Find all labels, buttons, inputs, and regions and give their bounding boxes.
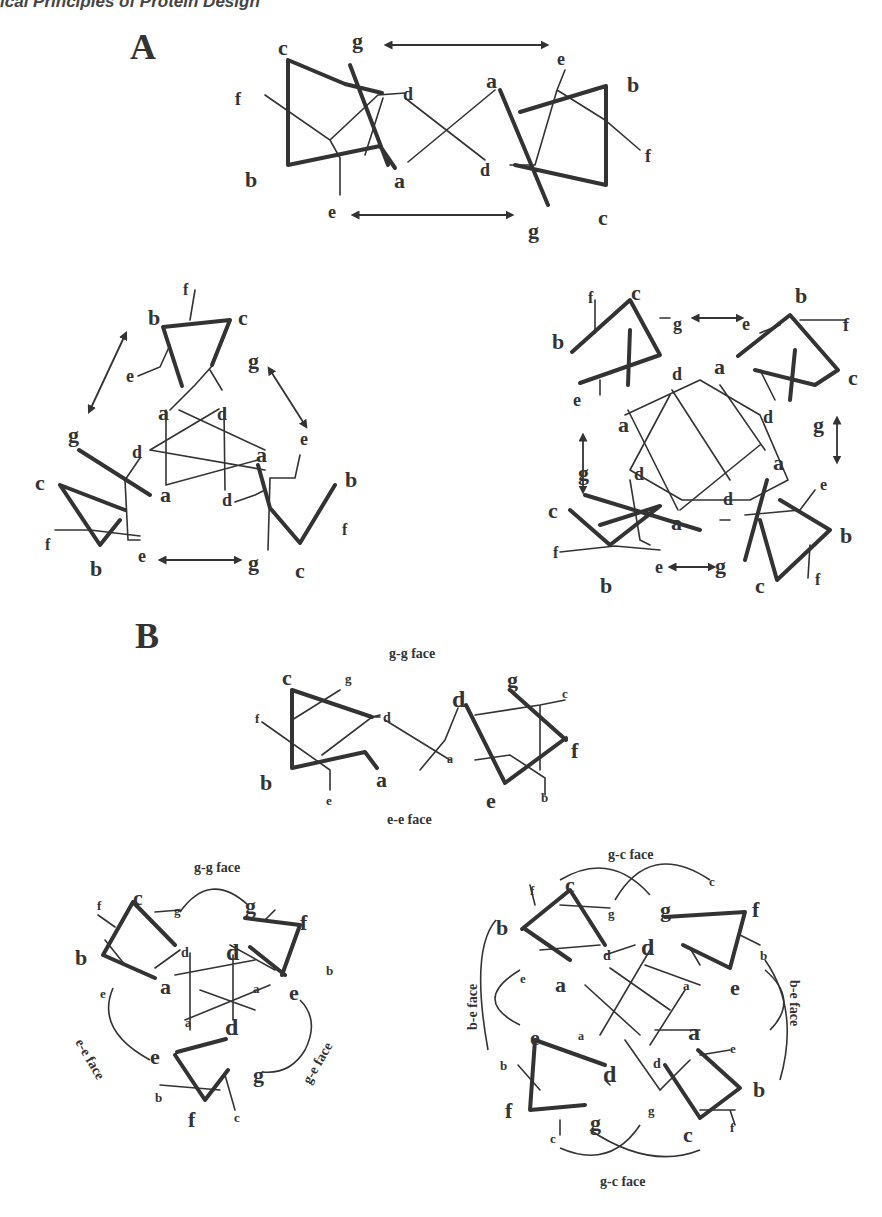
svg-text:a: a bbox=[773, 450, 784, 475]
svg-text:g: g bbox=[660, 897, 671, 922]
svg-text:g: g bbox=[245, 893, 256, 918]
svg-text:f: f bbox=[645, 146, 652, 166]
panel-a-tetramer-diagram: f c b b g e f d a c e d g a g d a e c d … bbox=[548, 280, 858, 598]
svg-text:e: e bbox=[150, 1044, 160, 1069]
b-dimer-face-top: g-g face bbox=[389, 646, 435, 661]
helical-wheel-figure: c g f d a e b b a d f e g c f b c g e a … bbox=[0, 0, 882, 1217]
svg-text:c: c bbox=[755, 573, 765, 598]
svg-text:e: e bbox=[742, 314, 750, 334]
svg-text:c: c bbox=[35, 470, 45, 495]
svg-text:c: c bbox=[282, 665, 292, 690]
svg-text:e: e bbox=[557, 49, 565, 69]
svg-text:a: a bbox=[160, 974, 171, 999]
svg-text:a: a bbox=[158, 400, 169, 425]
svg-text:b: b bbox=[600, 573, 612, 598]
svg-text:e: e bbox=[730, 975, 740, 1000]
svg-text:g: g bbox=[528, 218, 539, 243]
svg-text:b: b bbox=[245, 167, 257, 192]
svg-text:f: f bbox=[588, 289, 594, 306]
svg-text:d: d bbox=[653, 1056, 661, 1071]
b-trimer-face-left: e-e face bbox=[72, 1036, 107, 1082]
svg-text:b: b bbox=[496, 915, 508, 940]
svg-text:a: a bbox=[256, 442, 267, 467]
svg-text:f: f bbox=[571, 738, 579, 763]
svg-text:e: e bbox=[530, 1025, 540, 1050]
svg-text:e: e bbox=[730, 1041, 736, 1056]
svg-text:g: g bbox=[608, 906, 615, 921]
svg-text:g: g bbox=[248, 348, 259, 373]
b-tetramer-face-right: b-e face bbox=[787, 980, 802, 1026]
svg-text:g: g bbox=[248, 550, 259, 575]
svg-text:f: f bbox=[300, 910, 308, 935]
svg-text:c: c bbox=[631, 280, 641, 305]
label-c: c bbox=[278, 35, 288, 60]
svg-text:g: g bbox=[174, 903, 181, 918]
svg-text:a: a bbox=[688, 1019, 700, 1045]
b-dimer-face-bottom: e-e face bbox=[387, 812, 432, 827]
svg-text:e: e bbox=[328, 202, 336, 222]
svg-text:f: f bbox=[752, 897, 760, 922]
panel-a-dimer-diagram: c g f d a e b b a d f e g c bbox=[235, 28, 652, 243]
svg-text:e: e bbox=[486, 788, 496, 813]
svg-text:f: f bbox=[815, 571, 821, 588]
svg-text:f: f bbox=[530, 883, 535, 898]
svg-text:d: d bbox=[603, 1061, 617, 1087]
svg-text:a: a bbox=[253, 981, 260, 996]
svg-text:f: f bbox=[553, 544, 559, 561]
svg-text:d: d bbox=[763, 407, 773, 427]
svg-text:b: b bbox=[760, 948, 767, 963]
svg-text:c: c bbox=[709, 874, 715, 889]
svg-text:e: e bbox=[655, 557, 663, 577]
svg-text:g: g bbox=[648, 1103, 655, 1118]
b-trimer-face-top: g-g face bbox=[194, 860, 240, 875]
svg-text:d: d bbox=[603, 948, 611, 963]
svg-text:e: e bbox=[300, 429, 308, 449]
svg-text:d: d bbox=[452, 686, 466, 712]
b-tetramer-face-top: g-c face bbox=[608, 847, 653, 862]
svg-text:f: f bbox=[730, 1120, 735, 1135]
svg-text:e: e bbox=[126, 366, 134, 386]
svg-text:e: e bbox=[289, 980, 299, 1005]
panel-b-dimer-diagram: g-g face e-e face c g f d d g c f b a a … bbox=[255, 646, 579, 827]
b-tetramer-face-left: b-e face bbox=[465, 984, 480, 1030]
svg-text:b: b bbox=[345, 467, 357, 492]
svg-text:a: a bbox=[185, 1016, 191, 1030]
svg-text:a: a bbox=[555, 972, 566, 997]
svg-text:c: c bbox=[562, 686, 568, 701]
svg-text:f: f bbox=[183, 281, 189, 298]
svg-text:c: c bbox=[133, 885, 143, 910]
svg-text:a: a bbox=[376, 767, 387, 792]
svg-text:d: d bbox=[480, 160, 490, 180]
svg-text:a: a bbox=[618, 412, 629, 437]
svg-text:b: b bbox=[500, 1058, 507, 1073]
svg-text:g: g bbox=[345, 671, 352, 686]
svg-text:d: d bbox=[222, 490, 232, 510]
svg-text:d: d bbox=[672, 364, 682, 384]
svg-text:f: f bbox=[843, 315, 850, 335]
b-trimer-face-right: g-e face bbox=[300, 1040, 336, 1087]
svg-text:b: b bbox=[627, 72, 639, 97]
svg-text:g: g bbox=[673, 314, 682, 334]
svg-text:f: f bbox=[505, 1098, 513, 1123]
svg-text:g: g bbox=[813, 412, 824, 437]
svg-text:b: b bbox=[753, 1077, 765, 1102]
svg-text:b: b bbox=[90, 556, 102, 581]
svg-text:g: g bbox=[253, 1062, 264, 1087]
svg-text:b: b bbox=[326, 963, 333, 978]
svg-text:b: b bbox=[795, 283, 807, 308]
svg-text:d: d bbox=[217, 404, 227, 424]
svg-text:f: f bbox=[45, 536, 51, 553]
svg-text:d: d bbox=[226, 939, 240, 965]
svg-text:c: c bbox=[238, 305, 248, 330]
svg-text:e: e bbox=[820, 476, 827, 493]
svg-text:f: f bbox=[235, 89, 242, 109]
svg-text:d: d bbox=[383, 710, 391, 725]
svg-text:d: d bbox=[723, 489, 733, 509]
svg-text:d: d bbox=[403, 84, 413, 104]
svg-text:c: c bbox=[598, 205, 608, 230]
svg-text:a: a bbox=[683, 978, 690, 993]
svg-text:c: c bbox=[234, 1110, 240, 1125]
svg-text:a: a bbox=[447, 752, 453, 766]
panel-a-trimer-diagram: f b c g e a d g e d a c b a d f f e b g … bbox=[35, 281, 357, 583]
panel-b-trimer-diagram: g-g face e-e face g-e face c g g f f d d… bbox=[72, 860, 335, 1132]
